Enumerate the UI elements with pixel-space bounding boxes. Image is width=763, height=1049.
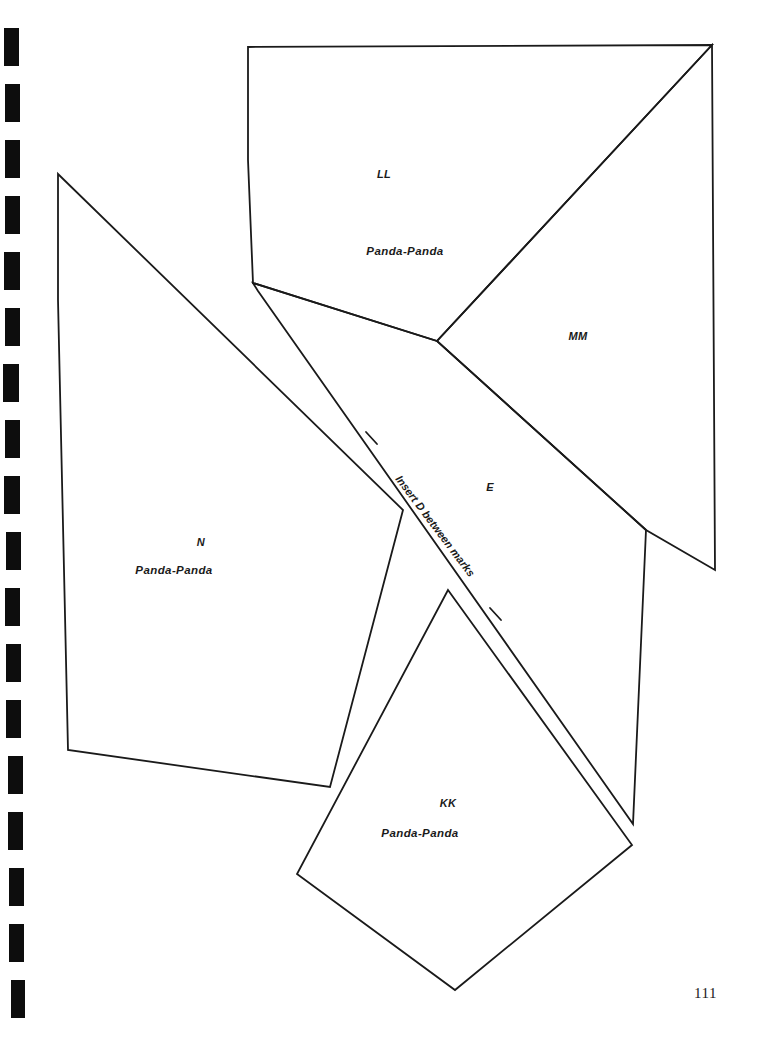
notch-mark-lower xyxy=(490,608,501,620)
pattern-piece-LL-outline xyxy=(248,45,712,341)
pattern-piece-KK-outline xyxy=(297,590,632,990)
piece-label-N-code: N xyxy=(197,536,205,548)
piece-label-KK-brand: Panda-Panda xyxy=(381,827,458,839)
pattern-outlines xyxy=(0,0,763,1049)
pattern-sheet-page: LL Panda-Panda MM N Panda-Panda E KK Pan… xyxy=(0,0,763,1049)
pattern-piece-MM-outline xyxy=(437,45,715,570)
piece-label-KK-code: KK xyxy=(440,797,457,809)
notch-mark-upper xyxy=(366,432,377,444)
pattern-piece-N-outline xyxy=(58,174,403,787)
piece-label-N-brand: Panda-Panda xyxy=(135,564,212,576)
piece-label-E-code: E xyxy=(486,481,494,493)
piece-label-LL-brand: Panda-Panda xyxy=(366,245,443,257)
piece-label-LL-code: LL xyxy=(377,168,391,180)
piece-label-MM-code: MM xyxy=(568,330,587,342)
page-number: 111 xyxy=(694,985,717,1002)
